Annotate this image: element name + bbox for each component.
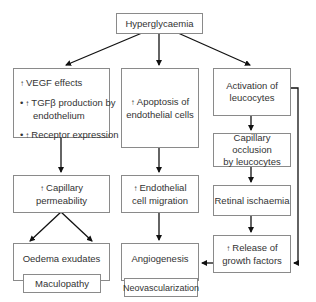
node-capillary-permeability: ↑Capillary permeability [13, 175, 110, 213]
node-release-growth-factors: ↑Release of growth factors [213, 235, 291, 273]
node-angiogenesis: Angiogenesis [121, 243, 199, 281]
list-item: •↑Receptor expression [20, 129, 118, 142]
bullet-icon: • [20, 129, 23, 140]
node-activation-leucocytes: Activation of leucocytes [213, 68, 291, 116]
list-item: ↑VEGF effects [20, 77, 82, 90]
node-label: Maculopathy [35, 278, 89, 290]
up-arrow-icon: ↑ [25, 131, 29, 140]
up-arrow-icon: ↑ [20, 79, 24, 88]
node-endothelial-migration: ↑Endothelial cell migration [121, 175, 199, 213]
up-arrow-icon: ↑ [25, 99, 29, 108]
up-arrow-icon: ↑ [40, 184, 44, 193]
node-vegf-tgf-receptor: ↑VEGF effects •↑TGFβ production by endot… [13, 68, 110, 138]
up-arrow-icon: ↑ [131, 98, 135, 107]
node-apoptosis-endothelial: ↑Apoptosis of endothelial cells [121, 68, 199, 148]
up-arrow-icon: ↑ [226, 244, 230, 253]
list-item: •↑TGFβ production by endothelium [20, 97, 115, 122]
node-label: Angiogenesis [131, 253, 188, 265]
up-arrow-icon: ↑ [133, 184, 137, 193]
bullet-icon: • [20, 97, 23, 108]
outcome-neovascularization: Neovascularization [124, 278, 198, 297]
node-capillary-occlusion: Capillary occlusion by leucocytes [213, 133, 291, 167]
arrow-root-to-right [178, 33, 250, 65]
node-label: Neovascularization [123, 282, 199, 294]
node-label: Retinal ischaemia [215, 195, 290, 207]
node-retinal-ischaemia: Retinal ischaemia [213, 185, 291, 216]
node-label: Oedema exudates [23, 253, 101, 265]
node-label: Hyperglycaemia [125, 18, 193, 30]
arrow-root-to-left [66, 33, 142, 65]
node-hyperglycaemia: Hyperglycaemia [116, 13, 203, 34]
outcome-maculopathy: Maculopathy [23, 274, 101, 293]
